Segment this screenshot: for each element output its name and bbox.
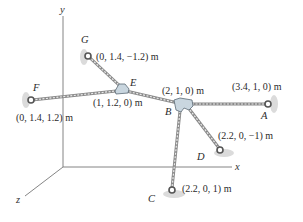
connector-e-icon — [115, 84, 129, 94]
ring-c-icon — [169, 187, 175, 193]
coords-f: (0, 1.4, 1.2) m — [16, 112, 73, 124]
coords-g: (0, 1.4, −1.2) m — [96, 51, 159, 63]
point-b-label: B — [165, 106, 172, 117]
ring-g-icon — [85, 53, 91, 59]
point-g-label: G — [81, 34, 89, 45]
cable-system-diagram: y x z G F — [0, 0, 303, 222]
support-shadows — [22, 49, 278, 198]
point-c-label: C — [148, 193, 156, 204]
ring-f-icon — [28, 97, 34, 103]
ring-d-icon — [217, 147, 223, 153]
y-axis-label: y — [59, 4, 65, 15]
coords-c: (2.2, 0, 1) m — [182, 183, 232, 195]
coords-a: (3.4, 1, 0) m — [232, 81, 282, 93]
ring-a-icon — [265, 101, 271, 107]
point-e-label: E — [129, 77, 137, 88]
coords-d: (2.2, 0, −1) m — [218, 130, 273, 142]
anchor-rings — [28, 53, 271, 193]
z-axis-label: z — [15, 194, 20, 205]
coordinate-labels: (0, 1.4, −1.2) m (0, 1.4, 1.2) m (1, 1.2… — [16, 51, 282, 195]
point-f-label: F — [32, 82, 40, 93]
coords-e: (1, 1.2, 0) m — [93, 97, 143, 109]
x-axis-label: x — [234, 161, 240, 172]
point-a-label: A — [260, 110, 268, 121]
z-axis — [25, 167, 63, 196]
point-d-label: D — [196, 151, 205, 162]
coords-b: (2, 1, 0) m — [162, 85, 204, 97]
